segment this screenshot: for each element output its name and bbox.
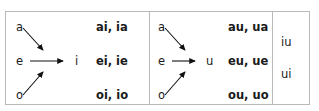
diphthong-pair-oi-io: oi, io xyxy=(96,90,128,102)
arrow-o-to-u xyxy=(165,72,185,95)
source-vowel-o: o xyxy=(16,90,23,102)
diphthong-iu: iu xyxy=(281,37,291,49)
arrow-a-to-i xyxy=(23,28,43,50)
diphthong-pair-ou-uo: ou, uo xyxy=(228,90,269,102)
diphthong-formation-diagram: a e o i ai, ia ei, ie oi, io a e o u au,… xyxy=(0,0,319,111)
i-panel: a e o i ai, ia ei, ie oi, io xyxy=(6,11,149,105)
target-vowel-u: u xyxy=(206,56,213,68)
diphthong-pair-au-ua: au, ua xyxy=(228,22,268,34)
panel-divider-right xyxy=(272,11,273,105)
diphthong-ui: ui xyxy=(281,69,291,81)
source-vowel-a: a xyxy=(16,22,23,34)
source-vowel-e: e xyxy=(158,56,165,68)
arrow-o-to-i xyxy=(23,72,43,95)
diphthong-pair-ai-ia: ai, ia xyxy=(96,22,128,34)
diphthong-pair-eu-ue: eu, ue xyxy=(228,56,268,68)
target-vowel-i: i xyxy=(75,56,78,68)
source-vowel-a: a xyxy=(158,22,165,34)
source-vowel-o: o xyxy=(158,90,165,102)
source-vowel-e: e xyxy=(16,56,23,68)
u-panel: a e o u au, ua eu, ue ou, uo xyxy=(150,11,272,105)
arrow-a-to-u xyxy=(165,28,185,50)
diphthong-pair-ei-ie: ei, ie xyxy=(96,56,128,68)
